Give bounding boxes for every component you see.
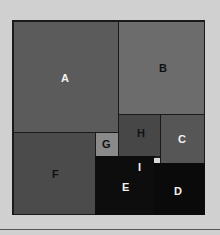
cell-label-b: B	[159, 62, 167, 74]
treemap-cell-c: C	[160, 114, 205, 164]
treemap-frame: A B H C F G E D I	[12, 20, 205, 215]
treemap-cell-e: E	[95, 156, 155, 215]
cell-label-a: A	[61, 72, 69, 84]
cell-label-d: D	[174, 185, 182, 197]
cell-label-e: E	[122, 181, 129, 193]
treemap-cell-a: A	[13, 21, 119, 133]
cell-label-c: C	[178, 133, 186, 145]
bottom-divider	[0, 229, 220, 230]
treemap-cell-d: D	[154, 163, 205, 215]
treemap-cell-b: B	[118, 21, 205, 115]
cell-label-i: I	[138, 161, 141, 173]
treemap-cell-f: F	[13, 132, 96, 215]
treemap-cell-i	[154, 158, 160, 163]
cell-label-g: G	[102, 138, 111, 150]
cell-label-f: F	[52, 168, 59, 180]
treemap-cell-h: H	[118, 114, 161, 157]
treemap-cell-g: G	[95, 132, 119, 157]
cell-label-h: H	[137, 127, 145, 139]
